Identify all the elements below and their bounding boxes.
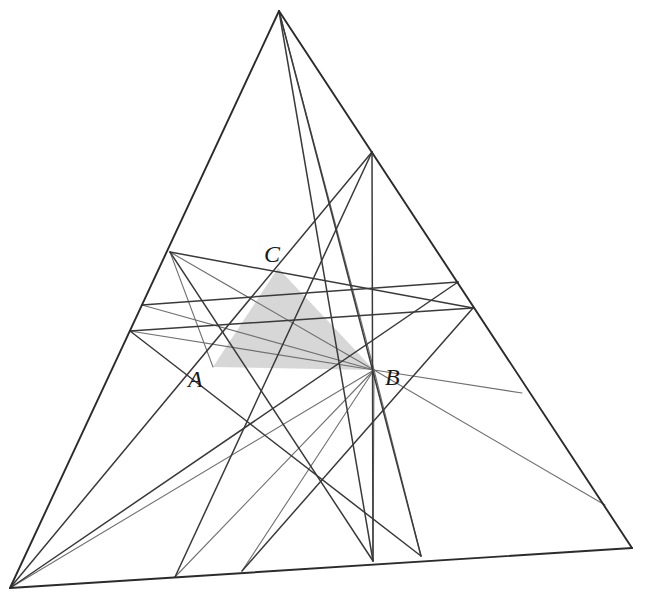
label-C: C — [264, 241, 281, 267]
geometry-canvas: ABC — [0, 0, 648, 601]
figure-background — [0, 0, 648, 601]
geometry-figure-root: ABC — [0, 0, 648, 601]
cevian-R1-to-basec — [372, 152, 373, 561]
label-A: A — [186, 366, 203, 392]
label-B: B — [385, 364, 400, 390]
